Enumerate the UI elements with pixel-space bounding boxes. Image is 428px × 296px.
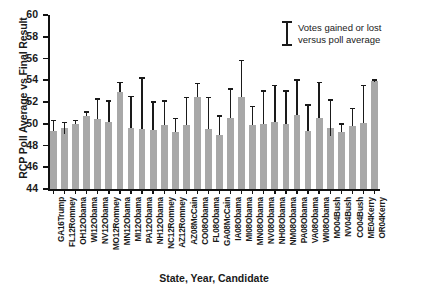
bar[interactable] <box>294 115 301 189</box>
error-bar-cap <box>173 118 178 120</box>
bar[interactable] <box>83 116 90 189</box>
bar[interactable] <box>205 129 212 189</box>
x-axis-label: PA08Obama <box>300 197 309 243</box>
bar[interactable] <box>338 132 345 189</box>
bar[interactable] <box>349 126 356 189</box>
bar[interactable] <box>194 97 201 189</box>
bar[interactable] <box>227 118 234 189</box>
y-axis-label: 54 <box>0 74 38 85</box>
x-axis-label: NV12Obama <box>101 197 110 244</box>
error-bar-line <box>296 80 297 115</box>
x-axis-tick <box>330 189 331 194</box>
bar[interactable] <box>105 122 112 189</box>
error-bar-cap <box>73 120 78 122</box>
error-bar-line <box>53 120 54 131</box>
bar[interactable] <box>161 125 168 189</box>
y-axis-tick <box>43 166 48 168</box>
error-bar-cap <box>294 79 299 81</box>
x-axis-tick <box>141 189 142 194</box>
x-axis-tick <box>64 189 65 194</box>
error-bar-cap <box>151 101 156 103</box>
error-bar-line <box>285 91 286 124</box>
bar[interactable] <box>238 97 245 189</box>
x-axis-tick <box>241 189 242 194</box>
error-bar-cap <box>195 83 200 85</box>
x-axis-label: NC12Romney <box>167 197 176 249</box>
x-axis-label: VA08Obama <box>311 197 320 243</box>
error-bar-line <box>307 105 308 131</box>
bar[interactable] <box>360 123 367 189</box>
y-axis-tick <box>43 101 48 103</box>
bar[interactable] <box>371 81 378 189</box>
x-axis-label: WI08Obama <box>322 197 331 243</box>
y-axis-tick <box>43 79 48 81</box>
x-axis-tick <box>252 189 253 194</box>
y-axis-label: 52 <box>0 96 38 107</box>
x-axis-label: NV04Bush <box>344 197 353 237</box>
error-bar-line <box>341 124 342 133</box>
x-axis-label: OH12Obama <box>79 197 88 245</box>
bar[interactable] <box>61 128 68 189</box>
x-axis-title: State, Year, Candidate <box>48 272 380 284</box>
x-axis-tick <box>374 189 375 194</box>
error-bar-line <box>241 61 242 97</box>
x-axis-label: MI08Obama <box>245 197 254 242</box>
error-bar-cap <box>139 77 144 79</box>
bar[interactable] <box>216 135 223 189</box>
legend-line-1: Votes gained or lost <box>298 22 381 34</box>
x-axis-label: NH08Obama <box>278 197 287 244</box>
y-axis-label: 50 <box>0 118 38 129</box>
x-axis-label: MO12Romney <box>112 197 121 250</box>
x-axis-label: PA12Obama <box>145 197 154 243</box>
error-bar-cap <box>250 106 255 108</box>
x-axis-tick <box>175 189 176 194</box>
y-axis-tick <box>43 58 48 60</box>
bar[interactable] <box>94 119 101 189</box>
x-axis-tick <box>341 189 342 194</box>
x-axis-label: NH12Obama <box>156 197 165 244</box>
bar[interactable] <box>128 128 135 189</box>
x-axis-label: FL12Romney <box>68 197 77 247</box>
error-bar-cap <box>206 97 211 99</box>
error-bar-line <box>197 84 198 97</box>
error-bar-line <box>330 100 331 136</box>
bar[interactable] <box>172 132 179 189</box>
bar[interactable] <box>249 125 256 189</box>
error-bar-cap <box>106 100 111 102</box>
bar[interactable] <box>271 122 278 189</box>
error-bar-line <box>152 102 153 130</box>
x-axis-tick <box>53 189 54 194</box>
x-axis-tick <box>296 189 297 194</box>
x-axis-label: AZ08McCain <box>190 197 199 245</box>
error-bar-cap <box>272 85 277 87</box>
x-axis-label: IA08Obama <box>234 197 243 241</box>
error-bar-line <box>164 101 165 125</box>
error-bar-line <box>363 86 364 123</box>
bar[interactable] <box>283 124 290 189</box>
y-axis-tick <box>43 188 48 190</box>
bar[interactable] <box>117 92 124 189</box>
y-axis-tick <box>43 14 48 16</box>
bar[interactable] <box>316 118 323 189</box>
bar[interactable] <box>305 131 312 189</box>
bar[interactable] <box>260 124 267 189</box>
error-bar-line <box>352 109 353 126</box>
bar[interactable] <box>327 128 334 189</box>
x-axis-label: NM08Obama <box>289 197 298 245</box>
x-axis-label: CO04Bush <box>356 197 365 238</box>
error-bar-cap <box>317 82 322 84</box>
error-bar-line <box>208 98 209 130</box>
error-bar-line <box>97 99 98 120</box>
error-bar-line <box>252 106 253 124</box>
x-axis-tick <box>263 189 264 194</box>
bar[interactable] <box>50 131 57 189</box>
bar[interactable] <box>139 129 146 189</box>
bar[interactable] <box>150 130 157 189</box>
error-bar-cap <box>239 60 244 62</box>
x-axis-label: GA16Trump <box>57 197 66 242</box>
y-axis-label: 48 <box>0 140 38 151</box>
bar[interactable] <box>183 125 190 189</box>
error-bar-line <box>318 82 319 118</box>
bar[interactable] <box>72 124 79 189</box>
legend: Votes gained or lost versus poll average <box>282 21 381 46</box>
